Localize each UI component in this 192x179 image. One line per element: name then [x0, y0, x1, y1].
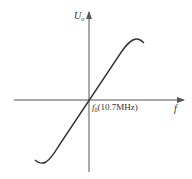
diagram-graphic [0, 0, 192, 179]
s-curve-diagram: Uo f0(10.7MHz) f [0, 0, 192, 179]
center-frequency-label: f0(10.7MHz) [92, 102, 138, 113]
x-axis-label: f [174, 103, 177, 114]
y-axis-label: Uo [74, 10, 84, 22]
